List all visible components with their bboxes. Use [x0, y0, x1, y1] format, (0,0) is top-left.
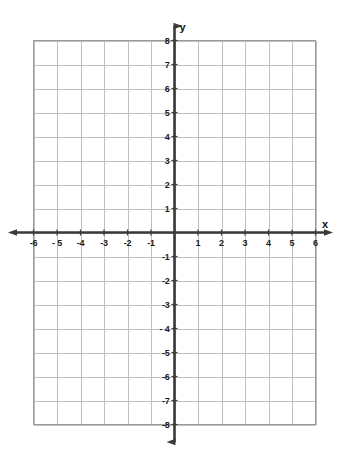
- x-axis-label: x: [322, 219, 328, 230]
- y-tick-label: 8: [165, 36, 170, 45]
- y-tick-label: 4: [165, 132, 170, 141]
- x-tick-label: -4: [77, 239, 85, 248]
- x-tick-label: 4: [266, 239, 271, 248]
- y-tick-label: 6: [165, 84, 170, 93]
- y-tick-label: -8: [162, 420, 170, 429]
- x-tick-label: -2: [124, 239, 132, 248]
- y-tick-label: 5: [165, 108, 170, 117]
- y-tick-label: -5: [162, 348, 170, 357]
- coordinate-grid-graph: -6- 5-4-3-2-1123456 87654321-1-2-3- 4-5-…: [0, 0, 341, 458]
- y-tick-label: -6: [162, 372, 170, 381]
- x-tick-label: 5: [290, 239, 295, 248]
- graph-canvas: [0, 0, 341, 458]
- y-tick-label: 1: [165, 204, 170, 213]
- y-axis-label: y: [180, 22, 186, 33]
- y-tick-label: 7: [165, 60, 170, 69]
- y-tick-label: 2: [165, 180, 170, 189]
- y-tick-label: 3: [165, 156, 170, 165]
- x-tick-label: 1: [196, 239, 201, 248]
- y-tick-label: - 4: [160, 324, 170, 333]
- y-tick-label: -1: [162, 252, 170, 261]
- y-tick-label: -2: [162, 276, 170, 285]
- x-tick-label: 2: [219, 239, 224, 248]
- x-tick-label: 3: [243, 239, 248, 248]
- x-tick-label: -3: [100, 239, 108, 248]
- x-tick-label: -6: [30, 239, 38, 248]
- y-tick-label: -7: [162, 396, 170, 405]
- x-tick-label: 6: [313, 239, 318, 248]
- x-tick-label: - 5: [52, 239, 62, 248]
- y-tick-label: -3: [162, 300, 170, 309]
- x-tick-label: -1: [147, 239, 155, 248]
